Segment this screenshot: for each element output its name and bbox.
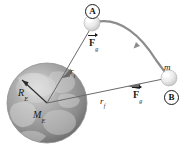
- point-label-a: A: [85, 4, 100, 19]
- r-initial-subscript: i: [74, 73, 76, 79]
- r-final-subscript: f: [104, 103, 106, 109]
- force-label-top: Fg: [89, 38, 98, 50]
- diagram-canvas: [0, 0, 191, 144]
- force-top-subscript: g: [95, 45, 98, 52]
- physics-diagram-figure: A B m RE ME ri rf Fg Fg: [0, 0, 191, 144]
- trajectory-direction-arrowhead: [134, 42, 141, 48]
- earth-mass-subscript: E: [41, 117, 45, 124]
- mass-label-m: m: [164, 63, 171, 72]
- force-bottom-subscript: g: [139, 97, 142, 104]
- force-label-bottom: Fg: [133, 90, 142, 102]
- r-initial-symbol: r: [70, 66, 74, 76]
- r-initial-label: ri: [70, 67, 75, 78]
- mass-sphere-b: [161, 70, 177, 86]
- point-label-b: B: [164, 90, 179, 105]
- r-final-symbol: r: [100, 96, 104, 106]
- earth-mass-label: ME: [33, 110, 45, 122]
- trajectory-arc: [96, 21, 168, 76]
- earth-radius-label: RE: [18, 88, 28, 100]
- earth-radius-subscript: E: [24, 95, 28, 102]
- r-final-label: rf: [100, 97, 105, 108]
